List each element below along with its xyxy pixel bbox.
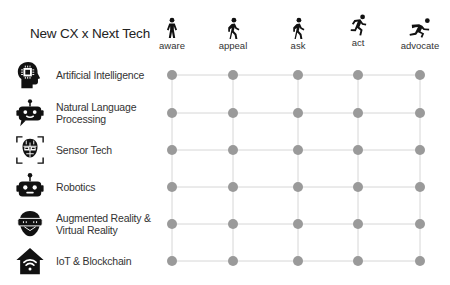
- matrix-dot-robot-head-ask: [293, 182, 303, 192]
- tech-label: Sensor Tech: [56, 144, 176, 156]
- matrix-dot-vr-headset-advocate: [415, 219, 425, 229]
- matrix-dot-face-scan-act: [353, 145, 363, 155]
- matrix-dot-ai-head-chip-ask: [293, 70, 303, 80]
- matrix-dot-chatbot-act: [353, 108, 363, 118]
- tech-label: Augmented Reality & Virtual Reality: [56, 212, 176, 236]
- matrix-dot-ai-head-chip-appeal: [228, 70, 238, 80]
- matrix-dot-vr-headset-appeal: [228, 219, 238, 229]
- tech-label: Robotics: [56, 181, 176, 193]
- tech-label: IoT & Blockchain: [56, 255, 176, 267]
- matrix-dot-smart-home-wifi-advocate: [415, 256, 425, 266]
- chatbot-icon: [14, 97, 46, 129]
- vr-headset-icon: [14, 208, 46, 240]
- matrix-dot-face-scan-ask: [293, 145, 303, 155]
- tech-label: Artificial Intelligence: [56, 69, 176, 81]
- matrix-dot-robot-head-act: [353, 182, 363, 192]
- matrix-dot-vr-headset-act: [353, 219, 363, 229]
- tech-row: Natural Language Processing: [14, 97, 176, 129]
- smart-home-wifi-icon: [14, 245, 46, 277]
- matrix-dot-chatbot-ask: [293, 108, 303, 118]
- tech-label: Natural Language Processing: [56, 101, 176, 125]
- matrix-dot-robot-head-appeal: [228, 182, 238, 192]
- tech-row: Robotics: [14, 171, 176, 203]
- matrix-dot-smart-home-wifi-appeal: [228, 256, 238, 266]
- tech-row: Augmented Reality & Virtual Reality: [14, 208, 176, 240]
- matrix-dot-face-scan-advocate: [415, 145, 425, 155]
- tech-row: IoT & Blockchain: [14, 245, 176, 277]
- robot-head-icon: [14, 171, 46, 203]
- matrix-dot-vr-headset-ask: [293, 219, 303, 229]
- matrix-dot-smart-home-wifi-ask: [293, 256, 303, 266]
- matrix-dot-robot-head-advocate: [415, 182, 425, 192]
- matrix-dot-chatbot-advocate: [415, 108, 425, 118]
- matrix-dot-chatbot-appeal: [228, 108, 238, 118]
- ai-head-chip-icon: [14, 59, 46, 91]
- matrix-dot-smart-home-wifi-act: [353, 256, 363, 266]
- matrix-dot-ai-head-chip-act: [353, 70, 363, 80]
- face-scan-icon: [14, 134, 46, 166]
- matrix-dot-ai-head-chip-advocate: [415, 70, 425, 80]
- tech-row: Sensor Tech: [14, 134, 176, 166]
- tech-row: Artificial Intelligence: [14, 59, 176, 91]
- matrix-dot-face-scan-appeal: [228, 145, 238, 155]
